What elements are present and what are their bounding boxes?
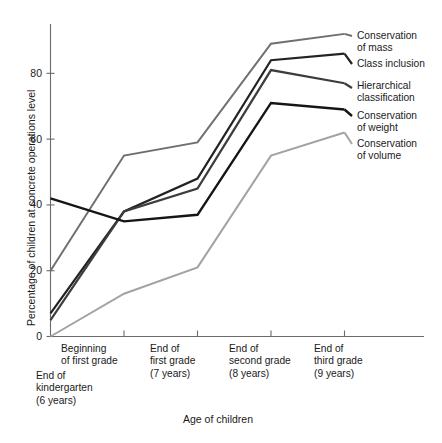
legend-label-line1: Hierarchical: [357, 80, 415, 92]
legend-item-hierarchical-classification: Hierarchical classification: [357, 80, 415, 104]
chart-axes: [51, 24, 425, 337]
leader-line-conservation-of-weight: [345, 110, 353, 116]
x-tick-line3: (7 years): [150, 368, 195, 380]
y-tick-label-40: 40: [20, 199, 42, 210]
x-tick-line3: (6 years): [36, 395, 93, 407]
legend-label-line1: Conservation: [357, 110, 417, 122]
x-tick-label-kindergarten: End of kindergarten (6 years): [36, 370, 93, 407]
y-tick-label-80: 80: [20, 68, 42, 79]
x-tick-line1: End of: [229, 343, 291, 355]
legend-label-line2: classification: [357, 92, 415, 104]
chart-series-lines: [51, 34, 345, 337]
legend-item-conservation-of-volume: Conservation of volume: [357, 138, 417, 162]
x-tick-label-end-second-grade: End of second grade (8 years): [229, 343, 291, 380]
legend-label-line1: Class inclusion: [357, 58, 425, 70]
x-tick-line2: third grade: [314, 355, 363, 367]
leader-line-conservation-of-volume: [345, 133, 353, 144]
x-tick-line1: End of: [314, 343, 363, 355]
series-line-conservation-of-mass: [51, 34, 345, 271]
legend-label-line1: Conservation: [357, 138, 417, 150]
legend-item-conservation-of-mass: Conservation of mass: [357, 30, 417, 54]
x-tick-line3: (9 years): [314, 368, 363, 380]
legend-label-line2: of mass: [357, 42, 417, 54]
legend-label-line2: of weight: [357, 122, 417, 134]
x-tick-label-end-first-grade: End of first grade (7 years): [150, 343, 195, 380]
legend-label-line1: Conservation: [357, 30, 417, 42]
x-tick-line1: End of: [36, 370, 93, 382]
x-tick-line1: End of: [150, 343, 195, 355]
legend-item-conservation-of-weight: Conservation of weight: [357, 110, 417, 134]
series-line-hierarchical-classification: [51, 70, 345, 320]
legend-leader-lines: [345, 34, 353, 144]
x-tick-line3: (8 years): [229, 368, 291, 380]
y-tick-label-60: 60: [20, 134, 42, 145]
series-line-class-inclusion: [51, 54, 345, 314]
y-tick-label-0: 0: [20, 331, 42, 342]
x-tick-line2: second grade: [229, 355, 291, 367]
x-tick-line2: of first grade: [61, 355, 118, 367]
x-tick-line2: first grade: [150, 355, 195, 367]
x-tick-label-beginning-first-grade: Beginning of first grade: [61, 343, 118, 368]
legend-item-class-inclusion: Class inclusion: [357, 58, 425, 70]
x-tick-label-end-third-grade: End of third grade (9 years): [314, 343, 363, 380]
x-tick-line2: kindergarten: [36, 382, 93, 394]
leader-line-class-inclusion: [345, 54, 353, 64]
series-line-conservation-of-volume: [51, 133, 345, 337]
x-tick-line1: Beginning: [61, 343, 118, 355]
leader-line-conservation-of-mass: [345, 34, 353, 36]
leader-line-hierarchical-classification: [345, 83, 353, 88]
x-axis-ticks: [124, 331, 345, 337]
series-line-conservation-of-weight: [51, 103, 345, 221]
x-axis-title: Age of children: [183, 414, 253, 425]
chart-figure: Percentage of children at concrete opera…: [0, 0, 442, 443]
y-tick-label-20: 20: [20, 265, 42, 276]
legend-label-line2: of volume: [357, 150, 417, 162]
